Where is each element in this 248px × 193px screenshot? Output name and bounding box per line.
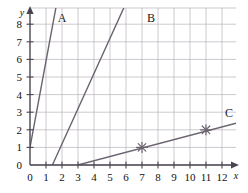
y-tick-label-5: 5: [17, 71, 23, 83]
x-tick-label-1: 1: [43, 171, 49, 183]
y-tick-label-2: 2: [17, 124, 23, 136]
x-tick-label-6: 6: [123, 171, 129, 183]
y-tick-label-6: 6: [17, 53, 23, 65]
marker-point-7-1: [137, 142, 148, 152]
x-tick-label-12: 12: [217, 171, 228, 183]
y-tick-label-0: 0: [17, 159, 23, 171]
series-label-c: C: [225, 106, 233, 120]
x-tick-label-11: 11: [201, 171, 212, 183]
x-tick-label-7: 7: [139, 171, 145, 183]
x-axis-arrowhead: [231, 161, 239, 168]
y-tick-label-8: 8: [17, 18, 23, 30]
series-label-a: A: [58, 11, 67, 25]
x-tick-label-2: 2: [59, 171, 65, 183]
y-tick-label-7: 7: [17, 36, 23, 48]
graph-figure: 0 1 2 3 4 5 6 7 8 9 10 11 12 0 1 2 3 4 5…: [0, 0, 248, 193]
axes: [26, 6, 239, 169]
y-tick-label-1: 1: [17, 141, 23, 153]
x-tick-labels: 0 1 2 3 4 5 6 7 8 9 10 11 12: [27, 171, 227, 183]
y-tick-labels: 0 1 2 3 4 5 6 7 8: [17, 18, 23, 171]
x-tick-label-9: 9: [171, 171, 177, 183]
x-axis-title: x: [233, 170, 239, 181]
y-tick-label-4: 4: [17, 89, 23, 101]
x-tick-label-8: 8: [155, 171, 161, 183]
vertical-gridlines: [30, 8, 222, 165]
y-axis-arrowhead: [26, 6, 33, 14]
series-label-b: B: [147, 11, 155, 25]
marker-point-11-2: [201, 125, 212, 135]
x-tick-label-3: 3: [75, 171, 81, 183]
series-line-a: [30, 0, 58, 147]
x-tick-label-0: 0: [27, 171, 33, 183]
x-tick-label-4: 4: [91, 171, 97, 183]
y-tick-label-3: 3: [17, 106, 23, 118]
series-a-path: [30, 0, 58, 147]
x-tick-label-5: 5: [107, 171, 113, 183]
horizontal-gridlines: [30, 8, 236, 165]
x-tick-label-10: 10: [185, 171, 197, 183]
y-axis-title: y: [19, 7, 25, 18]
coordinate-plot: 0 1 2 3 4 5 6 7 8 9 10 11 12 0 1 2 3 4 5…: [0, 0, 248, 193]
